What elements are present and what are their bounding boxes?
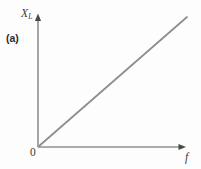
y-axis-label-subscript: L <box>28 12 32 21</box>
plot-area <box>0 0 201 169</box>
data-line-xl-vs-f <box>39 17 188 147</box>
x-axis-arrowhead <box>179 144 187 150</box>
origin-label: 0 <box>30 147 36 159</box>
x-axis-label: f <box>185 152 188 164</box>
y-axis-label: XL <box>21 8 33 21</box>
y-axis-arrowhead <box>35 14 41 22</box>
y-axis-label-symbol: X <box>21 7 28 19</box>
figure-container: (a) XL f 0 <box>0 0 201 169</box>
panel-label: (a) <box>6 33 19 44</box>
